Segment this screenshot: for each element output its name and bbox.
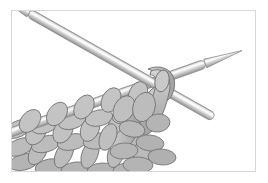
knitting-illustration: Line drawing of knitting: the right-hand… bbox=[0, 0, 268, 183]
illustration-frame: Line drawing of knitting: the right-hand… bbox=[11, 10, 256, 172]
knitting-diagram-svg bbox=[12, 11, 255, 171]
